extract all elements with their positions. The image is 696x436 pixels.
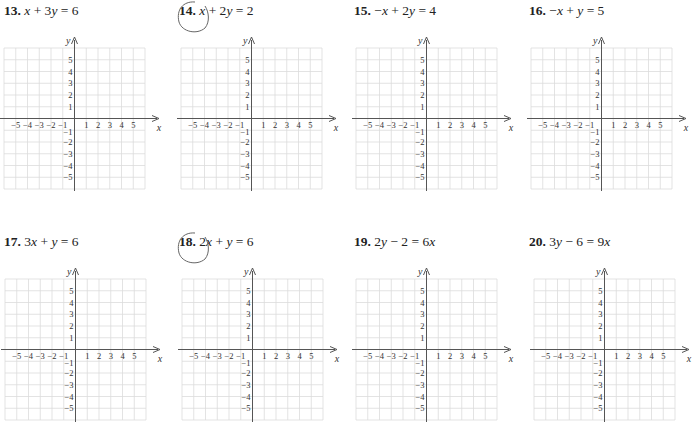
coordinate-grid[interactable]: yx−5−4−3−2−11234554321−1−2−3−4−5 <box>521 34 696 197</box>
x-axis-label: x <box>157 353 163 364</box>
svg-text:−5: −5 <box>590 172 599 182</box>
svg-text:3: 3 <box>245 78 249 88</box>
svg-text:−1: −1 <box>415 358 424 368</box>
svg-text:2: 2 <box>598 321 602 331</box>
svg-text:−2: −2 <box>241 368 250 378</box>
svg-text:−4: −4 <box>415 392 425 402</box>
x-axis-label: x <box>683 122 689 133</box>
svg-text:−2: −2 <box>64 368 73 378</box>
svg-text:−3: −3 <box>562 120 571 130</box>
svg-text:−5: −5 <box>12 351 21 361</box>
svg-text:3: 3 <box>68 78 72 88</box>
svg-text:−4: −4 <box>64 392 74 402</box>
svg-text:−5: −5 <box>240 172 249 182</box>
svg-text:1: 1 <box>595 102 599 112</box>
svg-text:−5: −5 <box>538 120 547 130</box>
svg-text:1: 1 <box>420 102 424 112</box>
y-axis-label: y <box>595 266 601 277</box>
svg-text:5: 5 <box>68 55 72 65</box>
x-axis-label: x <box>508 353 514 364</box>
svg-text:−5: −5 <box>363 351 372 361</box>
svg-text:3: 3 <box>638 351 642 361</box>
svg-text:5: 5 <box>483 351 487 361</box>
svg-text:−2: −2 <box>398 120 407 130</box>
coordinate-grid[interactable]: yx−5−4−3−2−11234554321−1−2−3−4−5 <box>524 265 696 428</box>
problem-equation: 3y − 6 = 9x <box>546 234 610 249</box>
problem-equation: −x + y = 5 <box>546 3 605 18</box>
svg-text:1: 1 <box>614 351 618 361</box>
svg-text:1: 1 <box>246 333 250 343</box>
svg-text:3: 3 <box>285 120 289 130</box>
svg-text:−3: −3 <box>415 380 424 390</box>
svg-text:1: 1 <box>436 351 440 361</box>
svg-text:5: 5 <box>658 120 662 130</box>
y-axis-label: y <box>65 35 71 46</box>
svg-text:2: 2 <box>245 90 249 100</box>
svg-text:2: 2 <box>626 351 630 361</box>
svg-text:−3: −3 <box>213 351 222 361</box>
svg-text:2: 2 <box>68 90 72 100</box>
svg-text:−1: −1 <box>64 358 73 368</box>
svg-text:−4: −4 <box>200 120 210 130</box>
svg-text:−3: −3 <box>387 120 396 130</box>
svg-text:−5: −5 <box>363 120 372 130</box>
svg-text:1: 1 <box>436 120 440 130</box>
svg-text:−2: −2 <box>415 368 424 378</box>
svg-text:−2: −2 <box>224 351 233 361</box>
svg-text:−1: −1 <box>63 127 72 137</box>
svg-text:3: 3 <box>108 120 112 130</box>
problem-title: 13. x + 3y = 6 <box>4 3 79 19</box>
coordinate-grid[interactable]: yx−5−4−3−2−11234554321−1−2−3−4−5 <box>0 265 176 428</box>
svg-text:4: 4 <box>120 351 125 361</box>
coordinate-grid[interactable]: yx−5−4−3−2−11234554321−1−2−3−4−5 <box>346 34 527 197</box>
problem-title: 15. −x + 2y = 4 <box>354 3 436 19</box>
svg-text:5: 5 <box>595 55 599 65</box>
svg-text:1: 1 <box>262 351 266 361</box>
svg-text:3: 3 <box>635 120 639 130</box>
coordinate-grid[interactable]: yx−5−4−3−2−11234554321−1−2−3−4−5 <box>0 34 175 197</box>
svg-text:−4: −4 <box>550 120 560 130</box>
svg-text:−1: −1 <box>593 358 602 368</box>
problem-equation: 3x + y = 6 <box>21 234 79 249</box>
svg-text:−5: −5 <box>415 172 424 182</box>
svg-text:5: 5 <box>598 286 602 296</box>
svg-text:3: 3 <box>460 120 464 130</box>
problem-number: 19. <box>354 234 371 249</box>
svg-text:−2: −2 <box>46 120 55 130</box>
problem-number: 16. <box>529 3 546 18</box>
coordinate-grid[interactable]: yx−5−4−3−2−11234554321−1−2−3−4−5 <box>346 265 527 428</box>
svg-text:−3: −3 <box>241 380 250 390</box>
svg-text:3: 3 <box>286 351 290 361</box>
svg-text:4: 4 <box>649 351 654 361</box>
svg-text:5: 5 <box>420 286 424 296</box>
problem-title: 14. x + 2y = 2 <box>179 3 254 19</box>
svg-text:−3: −3 <box>387 351 396 361</box>
svg-text:−4: −4 <box>201 351 211 361</box>
problem-number: 14. <box>179 3 196 18</box>
problem-equation: x + 2y = 2 <box>196 3 254 18</box>
svg-text:5: 5 <box>420 55 424 65</box>
svg-text:2: 2 <box>246 321 250 331</box>
svg-text:2: 2 <box>623 120 627 130</box>
problem-title: 16. −x + y = 5 <box>529 3 604 19</box>
problem-equation: 2y − 2 = 6x <box>371 234 435 249</box>
problem-title: 17. 3x + y = 6 <box>4 234 79 250</box>
svg-text:−4: −4 <box>590 161 600 171</box>
svg-text:5: 5 <box>308 120 312 130</box>
coordinate-grid[interactable]: yx−5−4−3−2−11234554321−1−2−3−4−5 <box>172 265 353 428</box>
svg-text:−4: −4 <box>241 392 251 402</box>
svg-text:1: 1 <box>611 120 615 130</box>
svg-text:−1: −1 <box>241 358 250 368</box>
x-axis-label: x <box>508 122 514 133</box>
svg-text:4: 4 <box>471 120 476 130</box>
y-axis-label: y <box>417 266 423 277</box>
svg-text:−3: −3 <box>212 120 221 130</box>
svg-text:−5: −5 <box>541 351 550 361</box>
svg-text:1: 1 <box>598 333 602 343</box>
x-axis-label: x <box>156 122 162 133</box>
svg-text:−3: −3 <box>63 149 72 159</box>
svg-text:−1: −1 <box>240 127 249 137</box>
coordinate-grid[interactable]: yx−5−4−3−2−11234554321−1−2−3−4−5 <box>171 34 352 197</box>
svg-text:−4: −4 <box>23 120 33 130</box>
svg-text:5: 5 <box>131 120 135 130</box>
